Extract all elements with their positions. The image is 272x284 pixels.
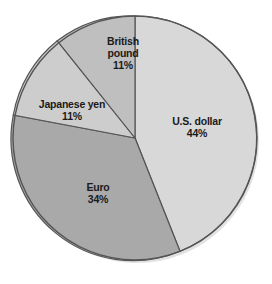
- pie-chart-svg: [0, 0, 272, 284]
- pie-chart-figure: U.S. dollar 44% Euro 34% Japanese yen 11…: [0, 0, 272, 284]
